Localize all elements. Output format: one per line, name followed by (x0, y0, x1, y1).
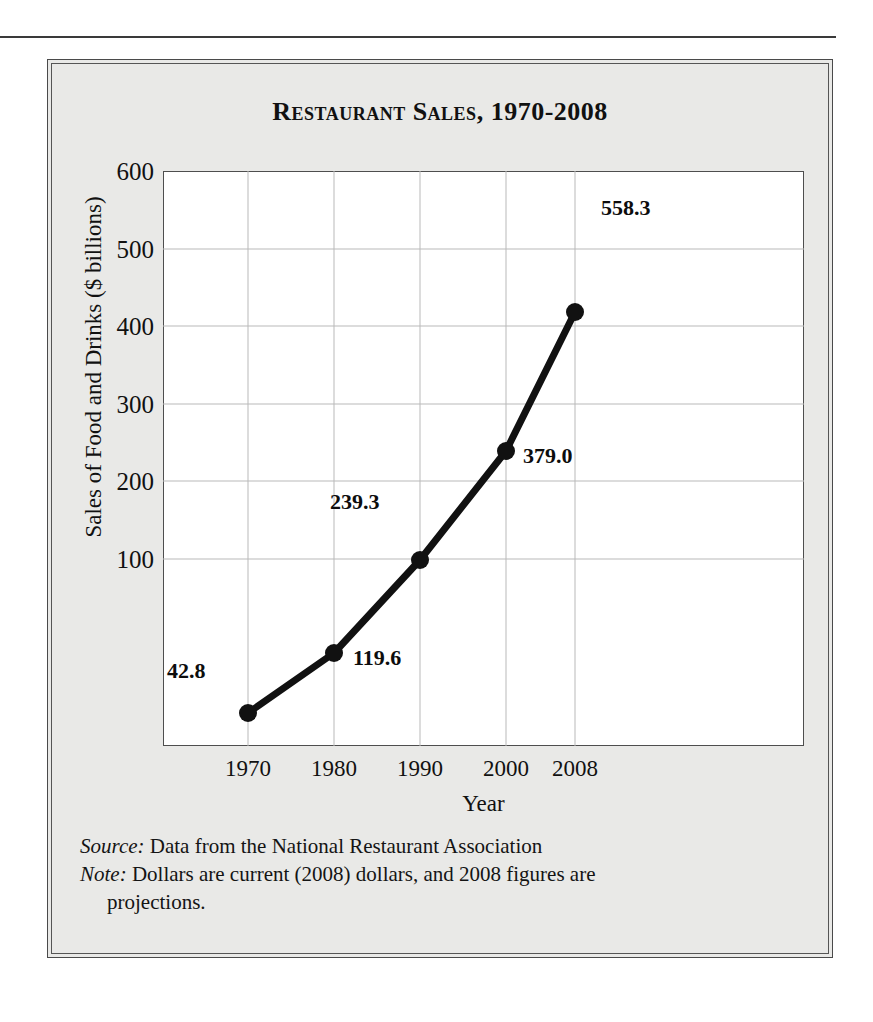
y-axis-tick-labels: 100200300400500600 (78, 64, 154, 953)
data-point-marker (325, 644, 343, 662)
x-tick-label: 1970 (200, 756, 296, 782)
source-label: Source: (80, 834, 145, 858)
chart-title: Restaurant Sales, 1970-2008 (52, 97, 828, 127)
figure-panel: Restaurant Sales, 1970-2008 Sales of Foo… (47, 59, 833, 958)
series-line (248, 312, 575, 713)
y-tick-label: 400 (84, 314, 154, 339)
chart-svg (163, 171, 804, 746)
data-point-label: 239.3 (330, 491, 380, 513)
gridlines (163, 171, 804, 746)
data-point-label: 558.3 (601, 197, 651, 219)
note-label: Note: (80, 862, 127, 886)
header-rule (0, 36, 836, 38)
data-point-marker (497, 442, 515, 460)
data-point-label: 42.8 (167, 660, 206, 682)
data-point-marker (411, 551, 429, 569)
data-point-label: 379.0 (523, 445, 573, 467)
x-tick-label: 1980 (286, 756, 382, 782)
plot-area (163, 171, 804, 746)
figure-inner-border: Restaurant Sales, 1970-2008 Sales of Foo… (51, 63, 829, 954)
data-point-label: 119.6 (353, 647, 401, 669)
y-tick-label: 300 (84, 392, 154, 417)
x-tick-label: 2008 (527, 756, 623, 782)
note-text: Dollars are current (2008) dollars, and … (127, 862, 596, 886)
data-point-marker (239, 704, 257, 722)
y-tick-label: 200 (84, 469, 154, 494)
data-series-line (239, 303, 584, 722)
figure-note: Note: Dollars are current (2008) dollars… (80, 861, 780, 917)
source-note: Source: Data from the National Restauran… (80, 833, 780, 861)
x-axis-title: Year (163, 791, 804, 817)
y-tick-label: 100 (84, 547, 154, 572)
y-tick-label: 500 (84, 237, 154, 262)
y-tick-label: 600 (84, 159, 154, 184)
source-text: Data from the National Restaurant Associ… (145, 834, 543, 858)
x-tick-label: 1990 (372, 756, 468, 782)
footnotes: Source: Data from the National Restauran… (80, 833, 780, 917)
note-text-continued: projections. (80, 889, 780, 917)
data-point-marker (566, 303, 584, 321)
